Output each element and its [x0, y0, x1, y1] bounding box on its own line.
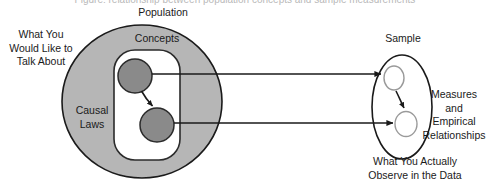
concept-node-1: [118, 59, 152, 93]
causal-laws-label: Causal Laws: [66, 104, 118, 131]
methodology-diagram: Figure: relationship between population …: [0, 0, 490, 196]
population-label: Population: [118, 6, 208, 20]
concepts-label: Concepts: [112, 32, 202, 46]
sample-bottom-caption: What You Actually Observe in the Data: [340, 155, 490, 182]
concept-node-2: [140, 108, 174, 142]
sample-label: Sample: [372, 32, 434, 46]
measures-caption: Measures and Empirical Relationships: [418, 88, 490, 142]
empirical-link-arrow: [396, 91, 404, 108]
measure-node-2: [395, 112, 417, 137]
measure-node-1: [384, 66, 404, 90]
population-caption: What You Would Like to Talk About: [2, 28, 80, 69]
